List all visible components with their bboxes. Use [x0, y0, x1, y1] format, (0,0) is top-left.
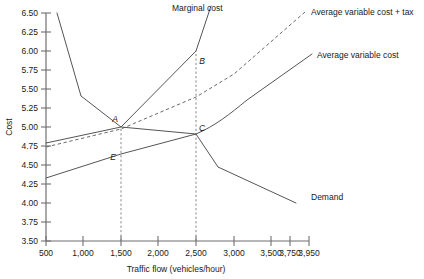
x-axis-title: Traffic flow (vehicles/hour) [127, 264, 226, 274]
point-label-B: B [199, 56, 205, 66]
curve-label-average-variable-cost-plus-tax: Average variable cost + tax [311, 7, 414, 17]
marginal-cost-curve [57, 6, 211, 127]
y-tick-label-0: 3.50 [21, 236, 38, 246]
y-tick-label-5: 4.75 [21, 141, 38, 151]
y-tick-label-8: 5.50 [21, 84, 38, 94]
y-tick-label-6: 5.00 [21, 122, 38, 132]
y-tick-labels: 3.50 3.75 4.00 4.25 4.50 4.75 5.00 5.25 … [21, 8, 38, 246]
x-tick-labels: 500 1,000 1,500 2,000 2,500 3,000 3,500 … [39, 248, 320, 258]
average-variable-cost-plus-tax-curve [46, 12, 305, 147]
x-tick-label-3: 2,000 [147, 248, 169, 258]
chart-svg: 3.50 3.75 4.00 4.25 4.50 4.75 5.00 5.25 … [0, 0, 424, 279]
y-tick-label-9: 5.75 [21, 65, 38, 75]
cost-vs-traffic-flow-chart: 3.50 3.75 4.00 4.25 4.50 4.75 5.00 5.25 … [0, 0, 424, 279]
x-tick-label-0: 500 [39, 248, 53, 258]
x-tick-label-8: 3,950 [298, 248, 320, 258]
x-tick-label-4: 2,500 [185, 248, 207, 258]
y-axis-title: Cost [4, 118, 14, 136]
annotation-points: A B C E [110, 56, 206, 162]
y-tick-label-7: 5.25 [21, 103, 38, 113]
y-tick-label-3: 4.25 [21, 179, 38, 189]
curve-label-demand: Demand [311, 192, 343, 202]
average-variable-cost-curve [46, 54, 312, 178]
y-tick-label-2: 4.00 [21, 198, 38, 208]
y-tick-label-11: 6.25 [21, 27, 38, 37]
point-label-C: C [199, 123, 206, 133]
x-axis [46, 236, 309, 246]
point-label-A: A [111, 114, 118, 124]
droplines [121, 51, 196, 241]
y-tick-label-4: 4.50 [21, 160, 38, 170]
curve-label-marginal-cost: Marginal cost [172, 3, 223, 13]
x-tick-label-5: 3,000 [223, 248, 245, 258]
curve-label-average-variable-cost: Average variable cost [317, 50, 399, 60]
y-tick-label-12: 6.50 [21, 8, 38, 18]
y-axis [41, 13, 51, 241]
x-tick-label-1: 1,000 [72, 248, 94, 258]
point-label-E: E [110, 152, 116, 162]
y-tick-label-1: 3.75 [21, 217, 38, 227]
y-tick-label-10: 6.00 [21, 46, 38, 56]
x-tick-label-2: 1,500 [110, 248, 132, 258]
